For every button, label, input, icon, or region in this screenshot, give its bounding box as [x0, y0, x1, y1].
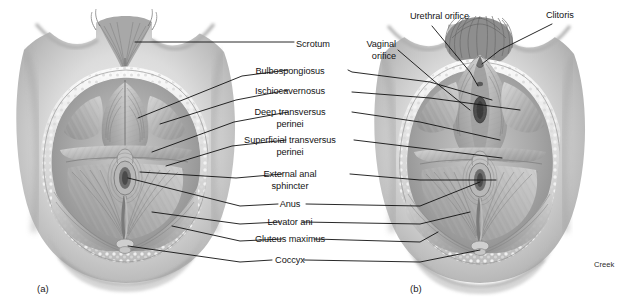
- label-clitoris: Clitoris: [546, 10, 574, 22]
- label-anus-line-1: Anus: [280, 199, 301, 211]
- label-external-anal-sphincter-line-1: External anal: [264, 169, 317, 181]
- label-coccyx-line-1: Coccyx: [275, 255, 305, 267]
- label-levator-ani: Levator ani: [268, 217, 313, 229]
- panel-a-id: (a): [37, 283, 49, 294]
- label-anus: Anus: [280, 199, 301, 211]
- label-superficial-transversus-perinei-line-2: perinei: [244, 147, 336, 159]
- label-deep-transversus-perinei-line-1: Deep transversus: [254, 107, 325, 119]
- artist-signature: Creek: [594, 260, 614, 269]
- label-vaginal-orifice-line-2: orifice: [366, 51, 396, 63]
- label-deep-transversus-perinei-line-2: perinei: [254, 119, 325, 131]
- label-scrotum-line-1: Scrotum: [296, 39, 330, 51]
- label-levator-ani-line-1: Levator ani: [268, 217, 313, 229]
- label-vaginal-orifice-line-1: Vaginal: [366, 39, 396, 51]
- label-superficial-transversus-perinei-line-1: Superficial transversus: [244, 135, 336, 147]
- label-urethral-orifice: Urethral orifice: [410, 11, 469, 23]
- label-external-anal-sphincter-line-2: sphincter: [264, 181, 317, 193]
- label-bulbospongiosus: Bulbospongiosus: [255, 66, 324, 78]
- label-gluteus-maximus-line-1: Gluteus maximus: [255, 234, 325, 246]
- label-superficial-transversus-perinei: Superficial transversus perinei: [244, 135, 336, 158]
- label-ischiocavernosus: Ischiocavernosus: [255, 86, 325, 98]
- label-gluteus-maximus: Gluteus maximus: [255, 234, 325, 246]
- label-vaginal-orifice: Vaginal orifice: [366, 39, 396, 62]
- label-deep-transversus-perinei: Deep transversus perinei: [254, 107, 325, 130]
- label-urethral-orifice-line-1: Urethral orifice: [410, 11, 469, 23]
- label-scrotum: Scrotum: [296, 39, 330, 51]
- label-external-anal-sphincter: External anal sphincter: [264, 169, 317, 192]
- anatomy-figure: Scrotum Bulbospongiosus Ischiocavernosus…: [0, 0, 639, 308]
- label-clitoris-line-1: Clitoris: [546, 10, 574, 22]
- label-coccyx: Coccyx: [275, 255, 305, 267]
- label-bulbospongiosus-line-1: Bulbospongiosus: [255, 66, 324, 78]
- label-ischiocavernosus-line-1: Ischiocavernosus: [255, 86, 325, 98]
- panel-b-id: (b): [410, 283, 422, 294]
